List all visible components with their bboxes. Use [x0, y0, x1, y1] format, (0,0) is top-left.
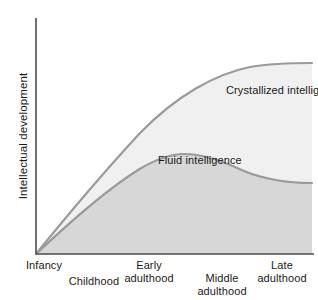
series-label-crystallized-intelligence: Crystallized intelligence	[226, 84, 318, 97]
intellectual-development-chart: Intellectual development Crystallized in…	[0, 0, 318, 300]
series-label-crystallized-line-2: intelligence	[287, 84, 318, 96]
x-tick-early-line-2: adulthood	[113, 272, 185, 285]
series-label-fluid-line-1: Fluid	[158, 154, 182, 166]
y-axis-label: Intellectual development	[12, 18, 34, 254]
series-label-fluid-intelligence: Fluid intelligence	[158, 154, 242, 167]
chart-plot-area	[0, 0, 318, 300]
x-tick-late-line-1: Late	[246, 259, 318, 272]
series-label-crystallized-line-1: Crystallized	[226, 84, 284, 96]
x-tick-late-line-2: adulthood	[246, 272, 318, 285]
x-tick-infancy-line-1: Infancy	[14, 259, 74, 272]
x-tick-label-early-adulthood: Early adulthood	[113, 259, 185, 285]
x-tick-middle-line-2: adulthood	[186, 285, 258, 298]
x-tick-early-line-1: Early	[113, 259, 185, 272]
x-tick-label-late-adulthood: Late adulthood	[246, 259, 318, 285]
x-tick-label-infancy: Infancy	[14, 259, 74, 272]
series-label-fluid-line-2: intelligence	[186, 154, 242, 166]
